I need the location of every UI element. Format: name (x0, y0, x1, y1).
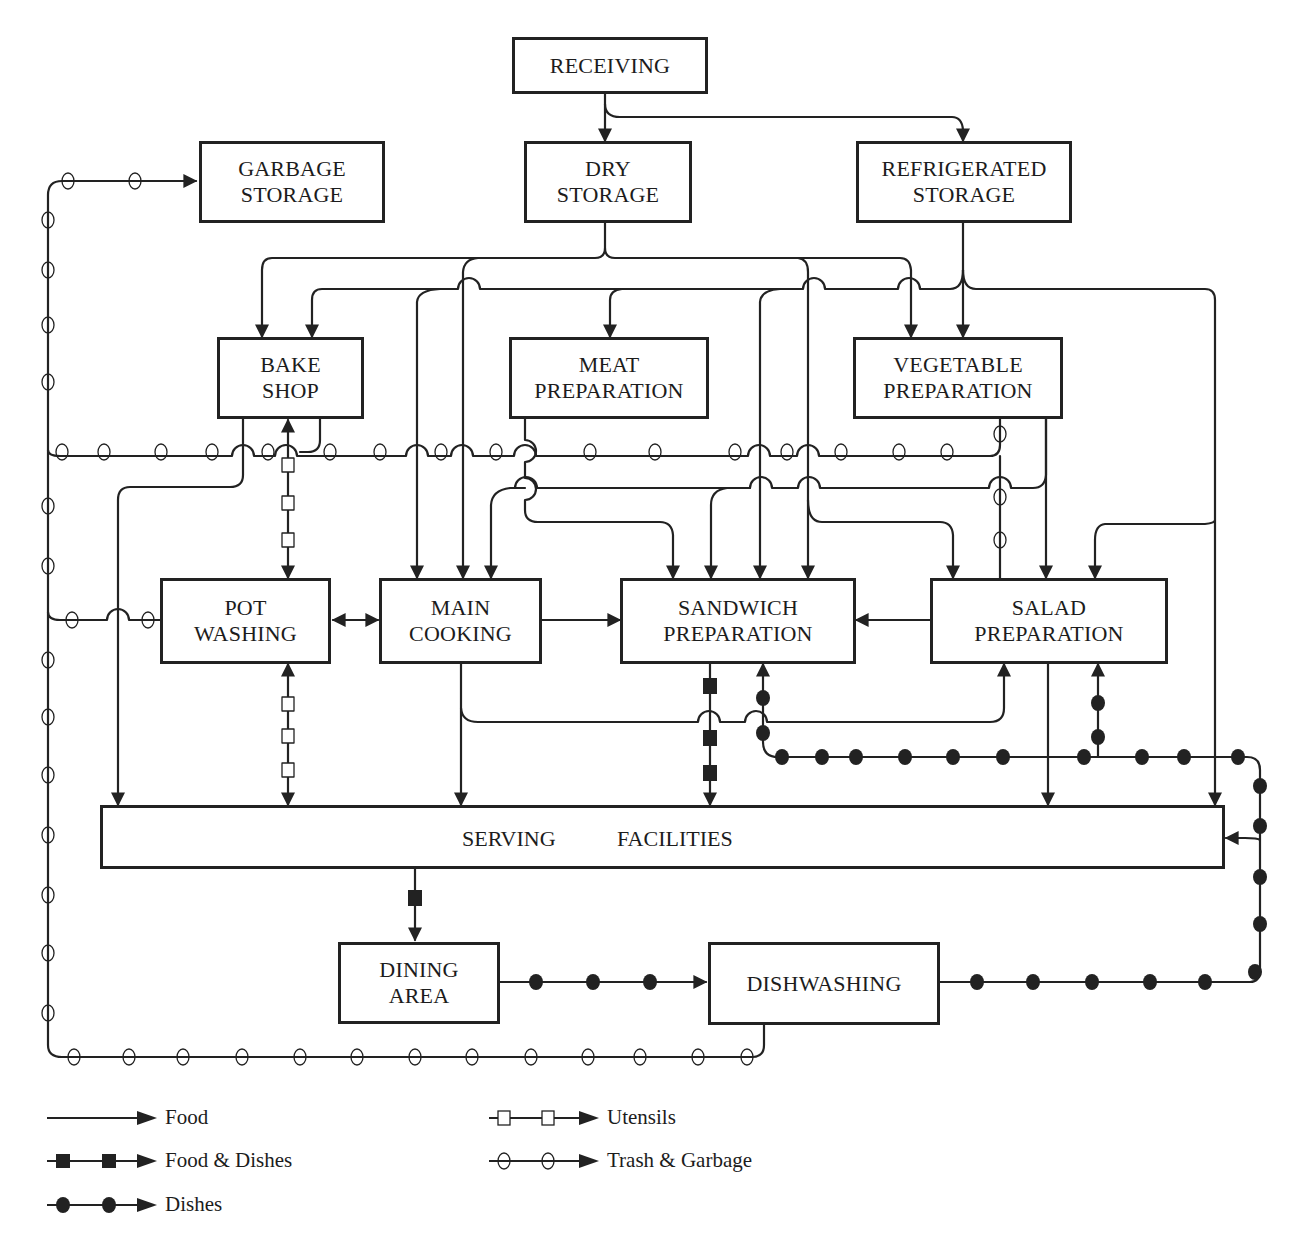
node-label: PREPARATION (883, 378, 1032, 404)
legend-label: Trash & Garbage (607, 1148, 752, 1173)
legend-label: Dishes (165, 1192, 222, 1217)
node-pot-washing: POT WASHING (160, 578, 331, 664)
node-label: SHOP (262, 378, 319, 404)
legend-label: Food (165, 1105, 208, 1130)
node-label: REFRIGERATED (882, 156, 1047, 182)
node-label: POT (224, 595, 266, 621)
node-label: BAKE (260, 352, 321, 378)
node-label: STORAGE (913, 182, 1015, 208)
node-label: VEGETABLE (893, 352, 1023, 378)
legend-label: Food & Dishes (165, 1148, 292, 1173)
legend-item-utensils: Utensils (487, 1105, 676, 1130)
node-label: SANDWICH (678, 595, 798, 621)
node-label: PREPARATION (663, 621, 812, 647)
legend-item-food-and-dishes: Food & Dishes (45, 1148, 292, 1173)
node-dining-area: DINING AREA (338, 942, 500, 1024)
legend-item-dishes: Dishes (45, 1192, 222, 1217)
node-bake-shop: BAKE SHOP (217, 337, 364, 419)
node-label: STORAGE (241, 182, 343, 208)
node-dishwashing: DISHWASHING (708, 942, 940, 1025)
node-garbage-storage: GARBAGE STORAGE (199, 141, 385, 223)
node-label: DRY (585, 156, 631, 182)
node-sandwich-preparation: SANDWICH PREPARATION (620, 578, 856, 664)
node-label: WASHING (194, 621, 297, 647)
legend-label: Utensils (607, 1105, 676, 1130)
node-salad-preparation: SALAD PREPARATION (930, 578, 1168, 664)
food-and-dishes-line-icon (45, 1151, 157, 1171)
node-dry-storage: DRY STORAGE (524, 141, 692, 223)
node-label: COOKING (409, 621, 512, 647)
node-label: MAIN (431, 595, 490, 621)
node-refrigerated-storage: REFRIGERATED STORAGE (856, 141, 1072, 223)
node-meat-preparation: MEAT PREPARATION (509, 337, 709, 419)
node-label: MEAT (579, 352, 640, 378)
legend-item-trash: Trash & Garbage (487, 1148, 752, 1173)
node-receiving: RECEIVING (512, 37, 708, 94)
food-and-dishes-flow-lines (408, 664, 717, 940)
node-label: RECEIVING (550, 53, 670, 79)
node-vegetable-preparation: VEGETABLE PREPARATION (853, 337, 1063, 419)
node-label: GARBAGE (238, 156, 346, 182)
node-label: PREPARATION (974, 621, 1123, 647)
node-label: DINING (379, 957, 458, 983)
legend-item-food: Food (45, 1105, 208, 1130)
serving-label-word2: FACILITIES (617, 826, 733, 852)
food-line-icon (45, 1108, 157, 1128)
utensils-line-icon (487, 1108, 599, 1128)
serving-label-word1: SERVING (462, 826, 556, 852)
node-label: DISHWASHING (747, 971, 902, 997)
node-label: AREA (389, 983, 450, 1009)
node-label: SALAD (1012, 595, 1086, 621)
node-main-cooking: MAIN COOKING (379, 578, 542, 664)
node-label: PREPARATION (534, 378, 683, 404)
trash-line-icon (487, 1151, 599, 1171)
dishes-line-icon (45, 1195, 157, 1215)
node-label: STORAGE (557, 182, 659, 208)
